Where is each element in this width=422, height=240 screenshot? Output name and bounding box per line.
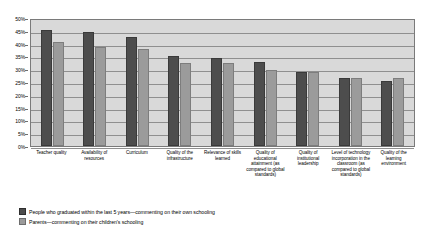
x-axis-category-label: Quality of the learning environment — [372, 150, 415, 205]
x-axis-category-label: Quality of the infrastructure — [158, 150, 201, 205]
y-axis-tick-mark — [25, 121, 28, 122]
bar[interactable] — [83, 32, 94, 146]
bar-group — [74, 20, 117, 146]
bar-group — [31, 20, 74, 146]
y-axis-tick-mark — [25, 70, 28, 71]
bar[interactable] — [296, 72, 307, 146]
x-axis-category-labels: Teacher qualityAvailability of resources… — [30, 150, 415, 205]
x-axis-category-label: Relevance of skills learned — [201, 150, 244, 205]
y-axis-tick-label: 45% — [15, 29, 25, 35]
y-axis-tick-label: 15% — [15, 106, 25, 112]
bar[interactable] — [254, 62, 265, 146]
y-axis-tick-label: 30% — [15, 67, 25, 73]
bar[interactable] — [223, 63, 234, 146]
y-axis-tick-mark — [25, 96, 28, 97]
bar-group — [329, 20, 372, 146]
x-axis-category-label: Curriculum — [116, 150, 159, 205]
x-axis-category-label: Level of technology incorporation in the… — [329, 150, 372, 205]
bar[interactable] — [138, 49, 149, 146]
bar[interactable] — [126, 37, 137, 146]
y-axis-tick-label: 20% — [15, 93, 25, 99]
bar[interactable] — [308, 72, 319, 146]
chart-legend: People who graduated within the last 5 y… — [19, 207, 409, 227]
y-axis-tick-mark — [25, 45, 28, 46]
legend-swatch — [19, 218, 26, 225]
legend-item[interactable]: People who graduated within the last 5 y… — [19, 207, 409, 216]
y-axis-tick-mark — [25, 32, 28, 33]
y-axis-tick-label: 50% — [15, 16, 25, 22]
bar-group — [286, 20, 329, 146]
y-axis-tick-mark — [25, 109, 28, 110]
bar[interactable] — [393, 78, 404, 146]
legend-item[interactable]: Parents—commenting on their children's s… — [19, 217, 409, 226]
bar[interactable] — [351, 78, 362, 146]
bar[interactable] — [180, 63, 191, 146]
bar[interactable] — [381, 81, 392, 146]
bar[interactable] — [339, 78, 350, 146]
x-axis-category-label: Quality of educational attainment (as co… — [244, 150, 287, 205]
bar[interactable] — [95, 47, 106, 146]
bar[interactable] — [211, 58, 222, 146]
gridline — [31, 148, 414, 149]
y-axis-tick-mark — [25, 134, 28, 135]
y-axis-tick-label: 5% — [18, 131, 25, 137]
legend-label: People who graduated within the last 5 y… — [29, 209, 215, 215]
y-axis-tick-label: 0% — [18, 144, 25, 150]
bar-group — [201, 20, 244, 146]
y-axis-tick-mark — [25, 83, 28, 84]
x-axis-category-label: Availability of resources — [73, 150, 116, 205]
plot-area-wrapper — [30, 19, 415, 147]
legend-label: Parents—commenting on their children's s… — [29, 219, 143, 225]
x-axis-category-label: Teacher quality — [30, 150, 73, 205]
legend-swatch — [19, 208, 26, 215]
bar[interactable] — [266, 70, 277, 146]
bar[interactable] — [168, 56, 179, 146]
bar-group — [244, 20, 287, 146]
bar-group — [372, 20, 415, 146]
y-axis-tick-label: 25% — [15, 80, 25, 86]
y-axis-tick-label: 40% — [15, 42, 25, 48]
y-axis-tick-mark — [25, 19, 28, 20]
bar-group — [116, 20, 159, 146]
bar[interactable] — [53, 42, 64, 146]
bar-group — [159, 20, 202, 146]
y-axis-tick-label: 10% — [15, 118, 25, 124]
bar[interactable] — [41, 30, 52, 146]
bar-chart: 50%45%40%35%30%25%20%15%10%5%0% Teacher … — [0, 0, 422, 240]
plot-area — [30, 19, 415, 147]
y-axis-tick-label: 35% — [15, 54, 25, 60]
y-axis-tick-mark — [25, 57, 28, 58]
y-axis-tick-mark — [25, 147, 28, 148]
bars-layer — [31, 20, 414, 146]
x-axis-category-label: Quality of institutional leadership — [287, 150, 330, 205]
y-axis: 50%45%40%35%30%25%20%15%10%5%0% — [0, 0, 28, 147]
